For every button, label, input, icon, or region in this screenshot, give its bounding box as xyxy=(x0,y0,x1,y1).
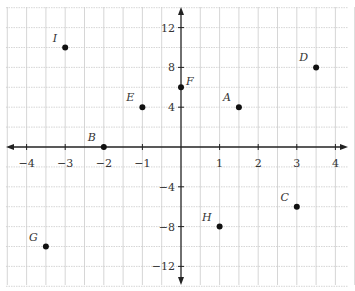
point-f xyxy=(178,84,184,90)
point-label-d: D xyxy=(298,51,308,64)
y-tick-label: −4 xyxy=(159,181,175,194)
point-h xyxy=(217,224,223,230)
point-label-f: F xyxy=(185,75,194,88)
point-b xyxy=(101,144,107,150)
x-tick-label: −3 xyxy=(57,157,73,170)
point-a xyxy=(236,104,242,110)
y-tick-label: 4 xyxy=(168,101,175,114)
point-label-i: I xyxy=(52,32,58,45)
point-label-b: B xyxy=(87,131,96,144)
x-tick-label: −4 xyxy=(18,157,34,170)
point-d xyxy=(313,64,319,70)
x-tick-label: 4 xyxy=(332,157,339,170)
point-i xyxy=(62,45,68,51)
point-label-a: A xyxy=(222,91,231,104)
y-tick-label: −12 xyxy=(152,260,175,273)
y-tick-label: 8 xyxy=(168,61,175,74)
point-label-e: E xyxy=(125,91,134,104)
point-label-h: H xyxy=(201,211,212,224)
y-axis-up-arrow-icon xyxy=(178,7,184,15)
y-tick-label: 12 xyxy=(161,22,175,35)
point-e xyxy=(139,104,145,110)
y-tick-label: −8 xyxy=(159,221,175,234)
y-axis-down-arrow-icon xyxy=(178,277,184,285)
x-tick-label: 3 xyxy=(293,157,300,170)
point-c xyxy=(294,204,300,210)
x-tick-label: −2 xyxy=(96,157,112,170)
point-label-g: G xyxy=(29,231,38,244)
x-axis-right-arrow-icon xyxy=(340,144,348,150)
point-g xyxy=(43,244,49,250)
coordinate-plane: −4−3−2−112341284−4−8−12 ABCDEFGHI xyxy=(0,0,355,291)
x-tick-label: 2 xyxy=(255,157,262,170)
x-tick-label: −1 xyxy=(134,157,150,170)
x-tick-label: 1 xyxy=(216,157,223,170)
point-label-c: C xyxy=(280,191,289,204)
